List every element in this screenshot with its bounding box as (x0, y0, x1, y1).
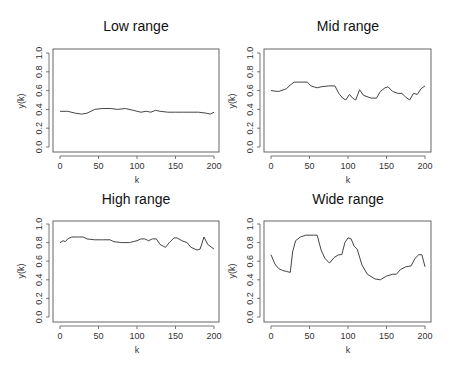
y-tick-label: 0.0 (34, 311, 44, 324)
panel-wide-range: Wide range 050100150200 0.00.20.40.60.81… (227, 191, 433, 355)
y-tick-label: 0.6 (34, 84, 44, 97)
y-axis-label: y(k) (16, 94, 26, 109)
x-tick-label: 200 (417, 331, 432, 341)
x-tick-label: 0 (57, 161, 62, 171)
y-tick-label: 0.2 (34, 292, 44, 305)
x-tick-label: 150 (379, 161, 394, 171)
panel-mid-range: Mid range 050100150200 0.00.20.40.60.81.… (227, 18, 433, 185)
x-axis-label: k (346, 175, 351, 185)
y-tick-label: 1.0 (245, 47, 255, 60)
x-tick-label: 0 (268, 161, 273, 171)
x-tick-label: 50 (93, 161, 103, 171)
y-tick-label: 0.0 (34, 141, 44, 154)
y-axis: 0.00.20.40.60.81.0 (245, 218, 260, 324)
y-tick-label: 0.4 (34, 103, 44, 116)
x-tick-label: 150 (168, 331, 183, 341)
x-tick-label: 100 (340, 161, 355, 171)
panel-title: Low range (103, 18, 169, 34)
panel-title: Mid range (317, 18, 379, 34)
y-axis: 0.00.20.40.60.81.0 (245, 47, 260, 154)
data-line (271, 235, 425, 280)
x-axis-label: k (346, 345, 351, 355)
y-tick-label: 1.0 (245, 218, 255, 231)
x-axis: 050100150200 (268, 326, 432, 341)
y-tick-label: 0.2 (34, 122, 44, 135)
panel-title: Wide range (312, 191, 384, 207)
x-tick-label: 100 (340, 331, 355, 341)
x-axis: 050100150200 (57, 156, 221, 171)
plot-frame (53, 221, 219, 322)
y-tick-label: 0.4 (245, 103, 255, 116)
x-tick-label: 200 (206, 331, 221, 341)
plot-frame (53, 49, 219, 152)
x-axis: 050100150200 (268, 156, 432, 171)
y-tick-label: 0.0 (245, 141, 255, 154)
y-tick-label: 0.6 (245, 255, 255, 268)
y-tick-label: 0.2 (245, 122, 255, 135)
plot-frame (264, 221, 431, 322)
y-axis-label: y(k) (16, 264, 26, 279)
panel-high-range: High range 050100150200 0.00.20.40.60.81… (16, 191, 222, 355)
x-tick-label: 150 (168, 161, 183, 171)
panel-title: High range (102, 191, 171, 207)
y-tick-label: 0.4 (34, 274, 44, 287)
y-tick-label: 0.8 (245, 66, 255, 79)
y-tick-label: 0.4 (245, 274, 255, 287)
x-tick-label: 50 (93, 331, 103, 341)
x-tick-label: 200 (417, 161, 432, 171)
x-tick-label: 0 (268, 331, 273, 341)
y-tick-label: 0.8 (245, 236, 255, 249)
data-line (60, 237, 214, 250)
y-axis-label: y(k) (227, 264, 237, 279)
x-tick-label: 50 (304, 161, 314, 171)
x-tick-label: 200 (206, 161, 221, 171)
x-axis: 050100150200 (57, 326, 221, 341)
data-line (271, 82, 425, 100)
chart-figure: Low range 050100150200 0.00.20.40.60.81.… (0, 0, 455, 371)
x-tick-label: 150 (379, 331, 394, 341)
y-tick-label: 0.2 (245, 292, 255, 305)
y-tick-label: 0.6 (245, 84, 255, 97)
x-axis-label: k (135, 345, 140, 355)
y-tick-label: 1.0 (34, 47, 44, 60)
data-line (60, 109, 214, 115)
x-tick-label: 100 (129, 331, 144, 341)
y-tick-label: 0.0 (245, 311, 255, 324)
y-axis: 0.00.20.40.60.81.0 (34, 218, 49, 324)
y-tick-label: 1.0 (34, 218, 44, 231)
y-tick-label: 0.8 (34, 236, 44, 249)
x-tick-label: 0 (57, 331, 62, 341)
y-axis-label: y(k) (227, 94, 237, 109)
x-tick-label: 50 (304, 331, 314, 341)
x-tick-label: 100 (129, 161, 144, 171)
x-axis-label: k (135, 175, 140, 185)
y-tick-label: 0.6 (34, 255, 44, 268)
y-tick-label: 0.8 (34, 66, 44, 79)
plot-frame (264, 49, 431, 152)
panel-low-range: Low range 050100150200 0.00.20.40.60.81.… (16, 18, 222, 185)
y-axis: 0.00.20.40.60.81.0 (34, 47, 49, 154)
